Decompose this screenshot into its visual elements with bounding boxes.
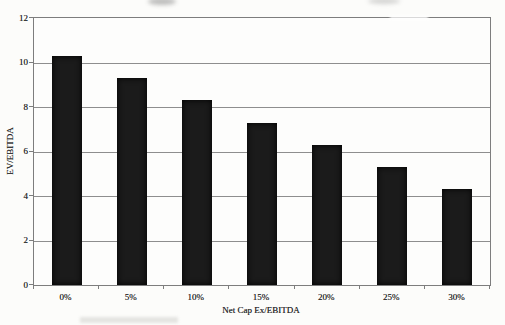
bar [442,189,472,285]
y-tick-mark [29,62,33,63]
y-tick-mark [29,106,33,107]
bar [52,56,82,285]
x-tick-mark [33,285,34,289]
gridline [34,107,490,108]
bar [312,145,342,285]
scan-smudge-artifact [368,0,400,4]
scan-smudge-artifact [148,0,176,5]
x-tick-mark [98,285,99,289]
faint-print-artifact [80,317,178,323]
x-tick-mark [294,285,295,289]
y-tick-label: 2 [24,235,29,245]
plot-area [33,17,491,286]
x-axis-title: Net Cap Ex/EBITDA [33,305,489,316]
y-tick-label: 0 [24,280,29,290]
x-tick-label: 20% [294,292,359,302]
x-tick-mark [489,285,490,289]
x-tick-mark [163,285,164,289]
x-tick-mark [359,285,360,289]
x-tick-label: 10% [163,292,228,302]
x-tick-label: 5% [98,292,163,302]
x-tick-label: 30% [424,292,489,302]
bar [247,123,277,285]
y-tick-mark [29,240,33,241]
y-tick-label: 12 [19,13,28,23]
scanned-bar-chart-figure: EV/EBITDA 024681012 Net Cap Ex/EBITDA 0%… [0,0,505,325]
bar [117,78,147,285]
y-tick-mark [29,195,33,196]
x-tick-label: 25% [359,292,424,302]
y-tick-mark [29,17,33,18]
y-tick-label: 6 [24,146,29,156]
y-tick-label: 10 [19,57,28,67]
x-tick-label: 0% [33,292,98,302]
x-tick-mark [228,285,229,289]
scan-glare-artifact [390,16,428,19]
bar [182,100,212,285]
x-tick-mark [424,285,425,289]
y-tick-label: 4 [24,191,29,201]
x-tick-label: 15% [228,292,293,302]
y-tick-label: 8 [24,102,29,112]
bar [377,167,407,285]
y-tick-mark [29,151,33,152]
y-axis-tick-labels: 024681012 [0,17,29,284]
gridline [34,63,490,64]
